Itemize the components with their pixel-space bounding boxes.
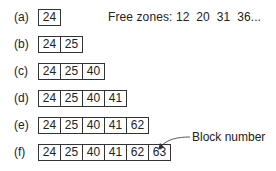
- callout-arrow-icon: [0, 0, 276, 171]
- block-number-callout: Block number: [192, 130, 265, 145]
